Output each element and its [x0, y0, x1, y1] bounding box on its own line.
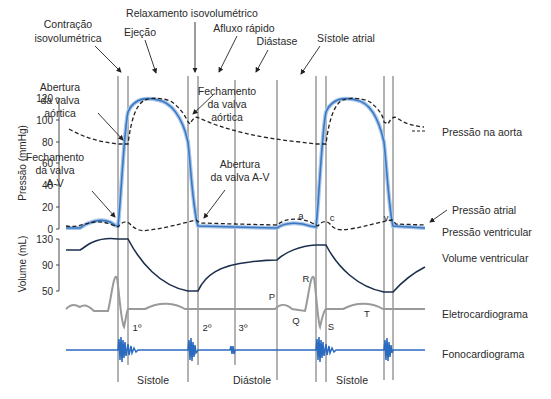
wave-a-label: a [298, 210, 304, 221]
label-abertura-aortica-3: aórtica [44, 107, 76, 119]
label-abertura-aortica-1: Abertura [40, 81, 80, 93]
ecg-r-label: R [303, 273, 310, 284]
label-fonocardiograma: Fonocardiograma [442, 348, 524, 360]
sound-1-label: 1º [133, 322, 142, 333]
label-relaxamento: Relaxamento isovolumétrico [126, 7, 258, 19]
label-fechamento-aortica-1: Fechamento [198, 85, 257, 97]
tick-50: 50 [42, 286, 54, 297]
ventricular-volume-trace [66, 239, 425, 292]
sound-3-label: 3º [239, 322, 248, 333]
cycle-labels: Sístole Diástole Sístole [137, 374, 368, 386]
ecg-trace [66, 277, 425, 327]
label-abertura-av-1: Abertura [220, 158, 260, 170]
ecg-q-label: Q [292, 315, 299, 326]
label-ejecao: Ejeção [124, 26, 156, 38]
phase-labels: Contração isovolumétrica Ejeção Relaxame… [34, 7, 374, 47]
ecg-p-label: P [269, 291, 275, 302]
label-diastole: Diástole [233, 374, 271, 386]
label-abertura-aortica-2: da valva [40, 94, 79, 106]
label-sistole-atrial: Sístole atrial [317, 32, 375, 44]
label-volume-ventricular: Volume ventricular [442, 252, 529, 264]
label-abertura-av-2: da valva A-V [211, 171, 270, 183]
label-contracao-2: isovolumétrica [34, 32, 101, 44]
label-fechamento-av-1: Fechamento [26, 151, 85, 163]
label-pressao-atrial: Pressão atrial [452, 204, 516, 216]
volume-axis-title: Volume (mL) [17, 236, 28, 293]
tick-130: 130 [36, 234, 53, 245]
phonocardiogram-trace [66, 337, 425, 362]
trace-labels: Pressão na aorta Pressão atrial Pressão … [412, 126, 532, 360]
label-fechamento-av-2: da valva [35, 164, 74, 176]
tick-90: 90 [42, 260, 54, 271]
volume-axis: 130 90 50 Volume (mL) [17, 234, 59, 297]
label-fechamento-aortica-2: da valva [207, 98, 246, 110]
label-fechamento-aortica-3: aórtica [211, 111, 243, 123]
wave-c-label: c [330, 212, 335, 223]
label-eletrocardiograma: Eletrocardiograma [442, 308, 528, 320]
label-afluxo: Afluxo rápido [213, 22, 274, 34]
label-pressao-ventricular: Pressão ventricular [442, 226, 532, 238]
sound-2-label: 2º [203, 322, 212, 333]
ecg-t-label: T [364, 308, 370, 319]
label-fechamento-av-3: A-V [46, 177, 64, 189]
wiggers-diagram: Contração isovolumétrica Ejeção Relaxame… [0, 0, 551, 399]
label-sistole-1: Sístole [137, 374, 169, 386]
label-sistole-2: Sístole [336, 374, 368, 386]
label-pressao-aorta: Pressão na aorta [442, 126, 522, 138]
tick-80: 80 [42, 137, 54, 148]
wave-v-label: v [384, 212, 389, 223]
label-diastase: Diástase [257, 35, 298, 47]
ecg-s-label: S [328, 321, 334, 332]
tick-20: 20 [42, 202, 54, 213]
pressure-axis-title: Pressão (mmHg) [17, 125, 28, 201]
label-contracao-1: Contração [44, 18, 93, 30]
